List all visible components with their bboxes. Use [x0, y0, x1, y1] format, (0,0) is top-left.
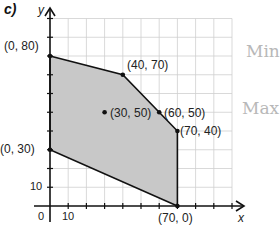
tick-x-10: 10 [62, 210, 74, 222]
x-axis-label: x [237, 211, 245, 225]
tick-y-10: 10 [30, 180, 42, 192]
label-0-80: (0, 80) [4, 39, 39, 53]
point-marker [157, 110, 162, 115]
y-axis-label: y [37, 3, 45, 17]
label-40-70: (40, 70) [127, 58, 168, 72]
label-30-50: (30, 50) [110, 106, 151, 120]
label-70-0: (70, 0) [158, 211, 193, 225]
point-marker [175, 129, 180, 134]
tick-x-0: 0 [38, 210, 44, 222]
feasible-region [50, 56, 177, 206]
point-marker [121, 72, 126, 77]
point-marker [102, 110, 107, 115]
feasible-region-chart: c) y x 0 10 10 (0, 80) (40, 70) (30, 50)… [0, 0, 280, 231]
handwriting-min: Min [246, 41, 280, 61]
point-marker [48, 147, 53, 152]
label-70-40: (70, 40) [180, 124, 221, 138]
point-marker [48, 54, 53, 59]
label-60-50: (60, 50) [164, 106, 205, 120]
part-label: c) [4, 1, 17, 17]
point-marker [175, 204, 180, 209]
handwriting-max: Max [242, 98, 280, 118]
label-0-30: (0, 30) [0, 142, 35, 156]
